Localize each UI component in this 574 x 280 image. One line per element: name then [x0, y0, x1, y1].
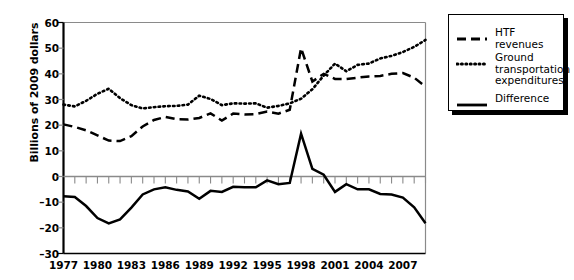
x-axis-tick-label: 1983: [114, 260, 148, 271]
x-axis-tick-label: 1992: [216, 260, 250, 271]
chart-legend: HTF revenuesGround transportation expend…: [448, 14, 564, 111]
legend-swatch-dotted: [456, 55, 488, 67]
x-axis-tick-label: 1980: [80, 260, 114, 271]
legend-item-label: HTF revenues: [495, 27, 565, 50]
x-axis-tick-label: 1986: [148, 260, 182, 271]
legend-item-label: Ground transportation expenditures: [495, 52, 565, 87]
legend-item-label: Difference: [495, 93, 565, 105]
legend-swatch-solid: [456, 96, 488, 108]
x-axis-tick-label: 1998: [284, 260, 318, 271]
legend-item: Ground transportation expenditures: [456, 52, 565, 87]
x-axis-tick-label: 2004: [352, 260, 386, 271]
x-axis-tick-label: 1977: [47, 260, 81, 271]
x-axis-tick-label: 2007: [386, 260, 420, 271]
legend-item: HTF revenues: [456, 27, 565, 50]
x-axis-tick-label: 2001: [318, 260, 352, 271]
legend-item: Difference: [456, 93, 565, 108]
series-line-ground-transportation-expenditures: [64, 40, 426, 109]
x-axis-tick-label: 1989: [182, 260, 216, 271]
x-axis-tick-label: 1995: [250, 260, 284, 271]
legend-swatch-dashed: [456, 30, 488, 42]
x-axis-tick-labels: 1977198019831986198919921995199820012004…: [0, 255, 440, 273]
chart-figure: Billions of 2009 dollars 6050403020100–1…: [0, 0, 574, 280]
